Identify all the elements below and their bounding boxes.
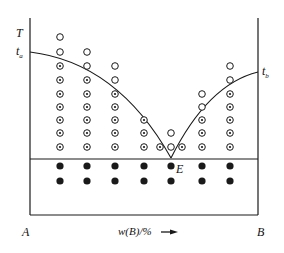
liquidus-left-curve [30,52,171,158]
dotted-circle-center-icon [86,132,88,134]
dotted-circle-center-icon [143,132,145,134]
dotted-circle-center-icon [59,132,61,134]
component-a-label: A [22,225,29,240]
dotted-circle-center-icon [201,119,203,121]
dotted-circle-center-icon [114,93,116,95]
arrow-head-icon [170,230,178,235]
filled-circle-icon [111,177,118,184]
open-circle-icon [84,49,91,56]
eutectic-point-label: E [176,162,183,177]
dotted-circle-center-icon [159,146,161,148]
dotted-circle-center-icon [86,93,88,95]
dotted-circle-center-icon [59,146,61,148]
axis-y-label: T [16,26,23,41]
dotted-circle-center-icon [114,146,116,148]
dotted-circle-center-icon [59,65,61,67]
ta-label: ta [16,44,23,60]
tb-label: tb [262,64,269,80]
filled-circle-icon [111,162,118,169]
dotted-circle-center-icon [181,146,183,148]
dotted-circle-center-icon [143,146,145,148]
dotted-circle-center-icon [114,132,116,134]
open-circle-icon [57,49,64,56]
dotted-circle-center-icon [229,93,231,95]
filled-circle-icon [198,177,205,184]
filled-circle-icon [83,162,90,169]
dotted-circle-center-icon [86,79,88,81]
open-circle-icon [199,91,206,98]
open-circle-icon [168,144,175,151]
phase-diagram [0,0,284,253]
dotted-circle-center-icon [229,106,231,108]
dotted-circle-center-icon [229,119,231,121]
dotted-circle-center-icon [86,119,88,121]
dotted-circle-center-icon [201,146,203,148]
dotted-circle-center-icon [86,146,88,148]
tb-sub: b [265,72,269,80]
filled-circle-icon [226,177,233,184]
dotted-circle-center-icon [59,93,61,95]
open-circle-icon [112,77,119,84]
filled-circle-icon [140,177,147,184]
open-circle-icon [227,63,234,70]
filled-circle-icon [83,177,90,184]
filled-circle-icon [167,162,174,169]
filled-circle-icon [167,177,174,184]
dotted-circle-center-icon [229,146,231,148]
open-circle-icon [227,77,234,84]
ta-sub: a [19,52,23,60]
open-circle-icon [112,63,119,70]
filled-circle-icon [226,162,233,169]
open-circle-icon [168,130,175,137]
dotted-circle-center-icon [59,79,61,81]
state-points [56,34,233,185]
dotted-circle-center-icon [59,119,61,121]
open-circle-icon [57,34,64,41]
dotted-circle-center-icon [229,132,231,134]
dotted-circle-center-icon [86,106,88,108]
axis-x-label: w(B)/% [118,225,152,237]
dotted-circle-center-icon [114,119,116,121]
dotted-circle-center-icon [114,106,116,108]
dotted-circle-center-icon [59,106,61,108]
component-b-label: B [257,225,264,240]
dotted-circle-center-icon [143,119,145,121]
dotted-circle-center-icon [201,132,203,134]
filled-circle-icon [56,162,63,169]
open-circle-icon [199,104,206,111]
filled-circle-icon [140,162,147,169]
filled-circle-icon [198,162,205,169]
open-circle-icon [84,63,91,70]
filled-circle-icon [56,177,63,184]
